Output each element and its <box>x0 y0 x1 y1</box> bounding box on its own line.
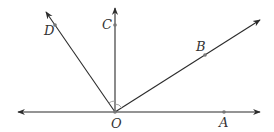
label-C: C <box>102 17 112 32</box>
points-group <box>53 23 226 114</box>
angle-mark-OD-OC <box>109 101 115 103</box>
ray-OB <box>115 20 260 112</box>
point-A <box>222 110 226 114</box>
label-D: D <box>43 23 55 38</box>
label-O: O <box>111 116 122 131</box>
angle-mark-OC-OB <box>115 104 122 108</box>
diagram-svg: OABCD <box>0 0 274 132</box>
geometry-diagram: OABCD <box>0 0 274 132</box>
point-C <box>113 23 117 27</box>
labels-group: OABCD <box>43 17 228 131</box>
point-O <box>113 110 117 114</box>
label-A: A <box>218 115 228 130</box>
label-B: B <box>195 39 206 54</box>
